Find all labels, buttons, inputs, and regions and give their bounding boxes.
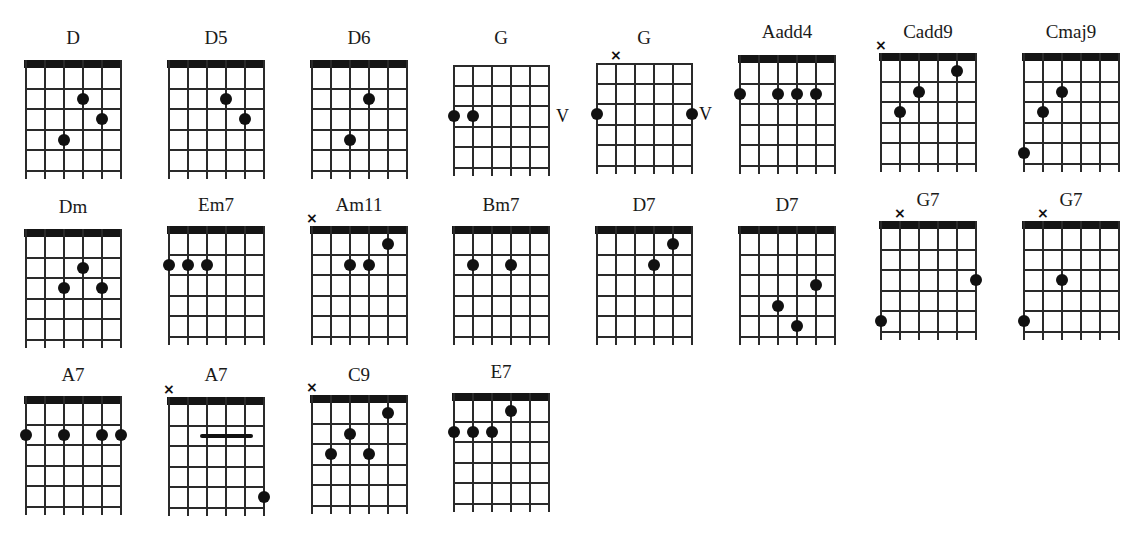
nut <box>452 393 550 401</box>
string-line <box>672 63 674 174</box>
string-line <box>758 55 760 174</box>
fret-line <box>168 149 265 151</box>
string-line <box>406 226 408 345</box>
string-line <box>796 55 798 174</box>
chord-diagram: Dm <box>25 197 135 367</box>
chord-diagram: Bm7 <box>453 195 563 365</box>
finger-dot <box>115 429 127 441</box>
string-line <box>82 396 84 515</box>
muted-string-x-icon: × <box>894 206 906 220</box>
muted-string-x-icon: × <box>163 382 175 396</box>
fret-line <box>880 163 977 165</box>
nut <box>24 396 122 404</box>
finger-dot <box>1018 315 1030 327</box>
fret-line <box>453 482 550 484</box>
string-line <box>1042 221 1044 340</box>
fret-line <box>596 315 693 317</box>
finger-dot <box>220 93 232 105</box>
string-line <box>510 226 512 345</box>
fret-line <box>311 254 408 256</box>
fret-line <box>880 122 977 124</box>
fret-line <box>168 425 265 427</box>
chord-name: Cmaj9 <box>1023 22 1119 42</box>
fret-line <box>453 85 550 87</box>
nut <box>879 221 977 229</box>
fret-position-label: V <box>699 105 712 123</box>
fret-line <box>168 507 265 509</box>
fret-line <box>168 170 265 172</box>
finger-dot <box>239 113 251 125</box>
fret-line <box>168 315 265 317</box>
nut <box>167 226 265 234</box>
fret-line <box>596 165 693 167</box>
string-line <box>472 393 474 512</box>
fret-line <box>311 464 408 466</box>
fret-line <box>1023 163 1120 165</box>
string-line <box>634 63 636 174</box>
finger-dot <box>382 407 394 419</box>
chord-diagram: E7 <box>453 362 563 532</box>
fret-line <box>25 339 122 341</box>
fretboard-grid <box>739 55 835 174</box>
fretboard-grid <box>453 226 549 345</box>
fret-line <box>25 506 122 508</box>
string-line <box>206 397 208 516</box>
nut <box>24 60 122 68</box>
fret-line <box>880 290 977 292</box>
string-line <box>834 226 836 345</box>
fretboard-grid: ×V <box>596 63 692 174</box>
finger-dot <box>467 110 479 122</box>
fret-line <box>1023 142 1120 144</box>
finger-dot <box>467 426 479 438</box>
fret-line <box>168 336 265 338</box>
finger-dot <box>258 491 270 503</box>
string-line <box>815 55 817 174</box>
fret-line <box>739 124 836 126</box>
string-line <box>263 226 265 345</box>
string-line <box>206 60 208 179</box>
chord-name: D5 <box>168 28 264 48</box>
string-line <box>1080 53 1082 172</box>
finger-dot <box>486 426 498 438</box>
string-line <box>1099 53 1101 172</box>
fret-line <box>25 298 122 300</box>
fret-line <box>311 315 408 317</box>
fret-line <box>25 170 122 172</box>
fret-line <box>453 146 550 148</box>
finger-dot <box>970 274 982 286</box>
nut <box>167 397 265 405</box>
nut <box>452 226 550 234</box>
fretboard-grid: × <box>880 53 976 172</box>
chord-diagram: Cmaj9 <box>1023 22 1133 192</box>
string-line <box>739 55 741 174</box>
fretboard-grid <box>25 229 121 348</box>
finger-dot <box>648 259 660 271</box>
finger-dot <box>1018 147 1030 159</box>
finger-dot <box>951 65 963 77</box>
chord-diagram: D6 <box>311 28 421 198</box>
string-line <box>937 53 939 172</box>
fret-line <box>311 295 408 297</box>
string-line <box>596 226 598 345</box>
fretboard-grid <box>25 60 121 179</box>
nut <box>167 60 265 68</box>
finger-dot <box>344 259 356 271</box>
fret-line <box>311 170 408 172</box>
fret-line <box>453 462 550 464</box>
nut <box>738 226 836 234</box>
string-line <box>63 396 65 515</box>
fret-line <box>311 484 408 486</box>
fretboard-grid <box>453 393 549 512</box>
string-line <box>880 53 882 172</box>
string-line <box>777 55 779 174</box>
fret-line <box>311 423 408 425</box>
fret-line <box>739 336 836 338</box>
string-line <box>244 226 246 345</box>
finger-dot <box>96 282 108 294</box>
fretboard-grid: × <box>168 397 264 516</box>
finger-dot <box>344 428 356 440</box>
fretboard-grid: × <box>1023 221 1119 340</box>
chord-diagram: Cadd9× <box>880 22 990 192</box>
fret-line <box>739 254 836 256</box>
string-line <box>1099 221 1101 340</box>
